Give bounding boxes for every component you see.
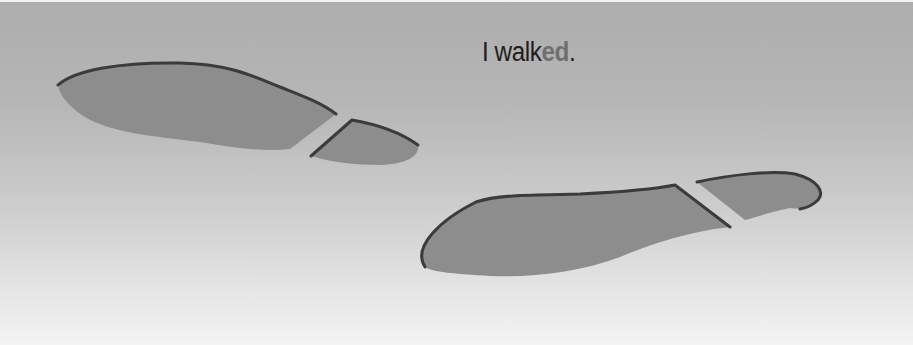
footprints-illustration [0,2,913,345]
caption-punctuation: . [569,37,575,67]
right-footprint [422,173,821,277]
right-footprint-sole [423,185,730,276]
caption-suffix-highlight: ed [541,37,568,67]
illustration-canvas: I walked. [0,0,913,345]
caption-text: I walked. [482,37,575,68]
left-footprint [58,63,418,165]
left-footprint-sole [58,63,336,150]
caption-base: I walk [482,37,541,67]
